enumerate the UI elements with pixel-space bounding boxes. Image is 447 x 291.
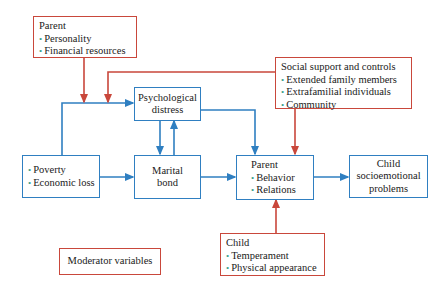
- box-label: Marital: [152, 165, 183, 178]
- list-item: •Relations: [251, 184, 313, 197]
- bullet-icon: •: [39, 46, 42, 56]
- box-title: Parent: [39, 20, 131, 33]
- psychological-distress-box: Psychological distress: [134, 87, 201, 121]
- bullet-icon: •: [28, 165, 31, 175]
- list-item: •Poverty: [28, 164, 94, 177]
- box-title: Parent: [251, 159, 313, 172]
- box-title: Child: [226, 237, 319, 250]
- bullet-icon: •: [226, 263, 229, 273]
- list-item: •Extrafamilial individuals: [281, 86, 406, 99]
- list-item: •Community: [281, 99, 406, 112]
- box-label: distress: [152, 104, 184, 117]
- bullet-icon: •: [39, 34, 42, 44]
- bullet-icon: •: [281, 100, 284, 110]
- box-label: problems: [369, 183, 408, 196]
- box-label: socioemotional: [356, 170, 420, 183]
- marital-bond-box: Marital bond: [134, 155, 201, 199]
- parent-behavior-box: Parent •Behavior •Relations: [236, 155, 314, 200]
- bullet-icon: •: [281, 87, 284, 97]
- social-support-box: Social support and controls •Extended fa…: [275, 57, 412, 109]
- list-item: •Economic loss: [28, 177, 94, 190]
- poverty-box: •Poverty •Economic loss: [22, 155, 100, 198]
- parent-moderator-box: Parent •Personality •Financial resources: [33, 16, 137, 58]
- list-item: •Behavior: [251, 172, 313, 185]
- bullet-icon: •: [226, 251, 229, 261]
- legend-label: Moderator variables: [68, 255, 153, 268]
- bullet-icon: •: [251, 185, 254, 195]
- child-socioemotional-box: Child socioemotional problems: [349, 155, 428, 198]
- child-moderator-box: Child •Temperament •Physical appearance: [220, 233, 325, 276]
- list-item: •Personality: [39, 33, 131, 46]
- bullet-icon: •: [281, 75, 284, 85]
- bullet-icon: •: [28, 178, 31, 188]
- list-item: •Temperament: [226, 250, 319, 263]
- box-label: bond: [157, 177, 178, 190]
- box-label: Child: [377, 158, 400, 171]
- box-label: Psychological: [138, 92, 197, 105]
- box-title: Social support and controls: [281, 61, 406, 74]
- list-item: •Financial resources: [39, 45, 131, 58]
- list-item: •Physical appearance: [226, 262, 319, 275]
- bullet-icon: •: [251, 173, 254, 183]
- list-item: •Extended family members: [281, 74, 406, 87]
- legend-moderator-variables: Moderator variables: [59, 248, 161, 275]
